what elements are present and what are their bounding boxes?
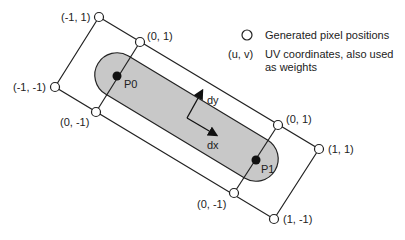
legend-text-uv-line1: UV coordinates, also used [265, 48, 393, 61]
p1-point [252, 156, 261, 165]
legend-text-uv-line2: as weights [265, 61, 393, 74]
legend-item-pixel-positions: Generated pixel positions [265, 29, 389, 42]
label-inner-bottom-right: (0, -1) [197, 198, 226, 210]
label-dy: dy [207, 94, 219, 106]
label-p1: P1 [261, 163, 274, 175]
capsule-shape [95, 53, 278, 181]
label-p0: P0 [124, 78, 137, 90]
legend-uv-symbol: (u, v) [228, 48, 253, 60]
pixel-position-inner-bottom-right [230, 189, 239, 198]
pixel-position-outer-top-left [95, 13, 104, 22]
pixel-position-inner-top-left [136, 38, 145, 47]
pixel-position-outer-bottom-left [51, 83, 60, 92]
hollow-circle-icon [242, 30, 252, 40]
legend-symbol-uv: (u, v) [228, 48, 253, 61]
label-outer-bottom-right: (1, -1) [283, 213, 312, 225]
label-inner-top-right: (0, 1) [286, 113, 312, 125]
legend-text-pixel-positions: Generated pixel positions [265, 29, 389, 41]
label-dx: dx [207, 139, 219, 151]
pixel-position-outer-bottom-right [270, 215, 279, 224]
p0-point [113, 72, 122, 81]
pixel-position-outer-top-right [315, 145, 324, 154]
label-outer-top-left: (-1, 1) [61, 11, 90, 23]
label-outer-top-right: (1, 1) [328, 143, 354, 155]
label-inner-bottom-left: (0, -1) [60, 116, 89, 128]
label-inner-top-left: (0, 1) [147, 30, 173, 42]
legend-item-uv-coordinates: UV coordinates, also used as weights [265, 48, 393, 74]
pixel-position-inner-top-right [274, 121, 283, 130]
pixel-position-inner-bottom-left [92, 108, 101, 117]
label-outer-bottom-left: (-1, -1) [13, 81, 46, 93]
